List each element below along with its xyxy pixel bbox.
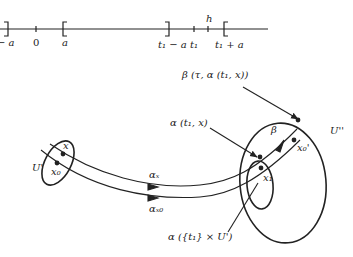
label-alpha-x0: αₓ₀ <box>149 204 163 214</box>
label-t1-minus-a: t₁ − a <box>158 40 187 50</box>
point-x <box>61 152 66 157</box>
point-alpha-t1-x <box>258 155 263 160</box>
label-x: x <box>63 141 69 151</box>
point-x0-prime <box>292 138 297 143</box>
label-x1: x₁ <box>263 173 273 183</box>
point-beta <box>296 118 301 123</box>
ellipse-U-double-prime <box>235 119 331 246</box>
label-t1: t₁ <box>190 40 198 50</box>
label-alpha-x: αₓ <box>149 170 159 180</box>
label-U-prime: U' <box>32 163 43 173</box>
label-h: h <box>206 14 212 24</box>
label-t1-plus-a: t₁ + a <box>215 40 244 50</box>
point-x0 <box>55 161 60 166</box>
point-x1 <box>259 166 264 171</box>
label-alpha-t1-x: α (t₁, x) <box>170 118 208 128</box>
label-U-double-prime: U'' <box>330 126 344 136</box>
label-zero: 0 <box>33 38 39 48</box>
label-alpha-set: α ({t₁} × U') <box>168 232 232 242</box>
label-beta-tau: β (τ, α (t₁, x)) <box>182 70 248 80</box>
label-x0: x₀ <box>51 167 61 177</box>
label-x0-prime: x₀' <box>297 143 309 153</box>
number-line <box>0 22 268 36</box>
label-neg-a: − a <box>0 38 15 48</box>
label-a: a <box>62 38 68 48</box>
leader-beta-point <box>243 87 298 119</box>
label-beta: β <box>271 125 277 135</box>
